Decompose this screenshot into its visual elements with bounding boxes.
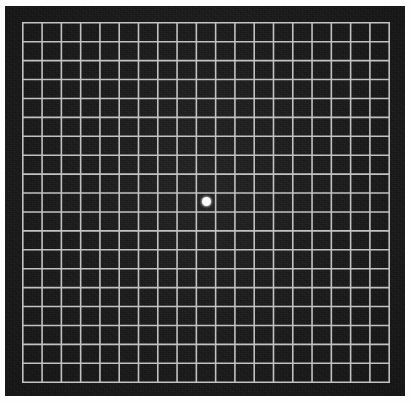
page-description: Amsler grid: a square white-lined grid o… [0, 0, 1, 1]
fixation-dot [202, 197, 211, 206]
chart-panel [5, 6, 405, 396]
page-title: Amsler Grid [0, 0, 1, 1]
amsler-grid-screen: Amsler Grid Amsler grid: a square white-… [0, 0, 411, 403]
fixation-dot-label: Central fixation dot [0, 0, 1, 1]
amsler-grid [22, 22, 390, 383]
grid-label: Amsler grid lines [0, 0, 1, 1]
